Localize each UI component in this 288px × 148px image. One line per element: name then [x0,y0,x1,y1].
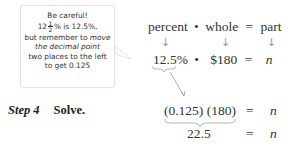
callout-line6: to get 0.125 [21,61,114,71]
variable-n: n [266,52,273,67]
arrow-down-icon: ↓ [267,36,276,49]
substitution-row: 12.5% • $180 = n [153,52,272,68]
step-action: Solve. [54,103,86,117]
callout-line5: two places to the left [21,52,114,62]
callout-line3: but remember to move [21,33,114,43]
step-number: Step 4 [8,103,40,117]
dot-operator: • [194,52,199,67]
formula-part: part [261,19,282,34]
formula-percent: percent [148,19,188,34]
solve-line1-rhs: n [270,103,277,119]
solve-line1-eq: = [246,103,254,119]
arrow-down-icon: ↓ [221,36,230,49]
solve-line2-lhs: 22.5 [187,126,211,142]
formula-dot: • [194,19,199,34]
callout-fraction-line: 1212% is 12.5%, [21,21,114,33]
percent-value: 12.5% [153,52,188,67]
whole-value: $180 [210,52,237,67]
formula-equals: = [246,19,254,34]
formula-whole: whole [205,19,238,34]
solve-line2-eq: = [246,126,254,142]
percent-formula: percent • whole = part [148,19,282,35]
solve-line2-rhs: n [270,126,277,142]
step-label: Step 4Solve. [8,103,85,118]
equals-sign: = [245,52,253,67]
solve-line1-lhs: (0.125) (180) [164,103,236,119]
callout-title: Be careful! [21,11,114,21]
arrow-down-icon: ↓ [161,36,170,49]
callout-box: Be careful! 1212% is 12.5%, but remember… [20,5,115,88]
callout-line4: the decimal point [21,42,114,52]
mixed-fraction: 12 [48,21,53,33]
